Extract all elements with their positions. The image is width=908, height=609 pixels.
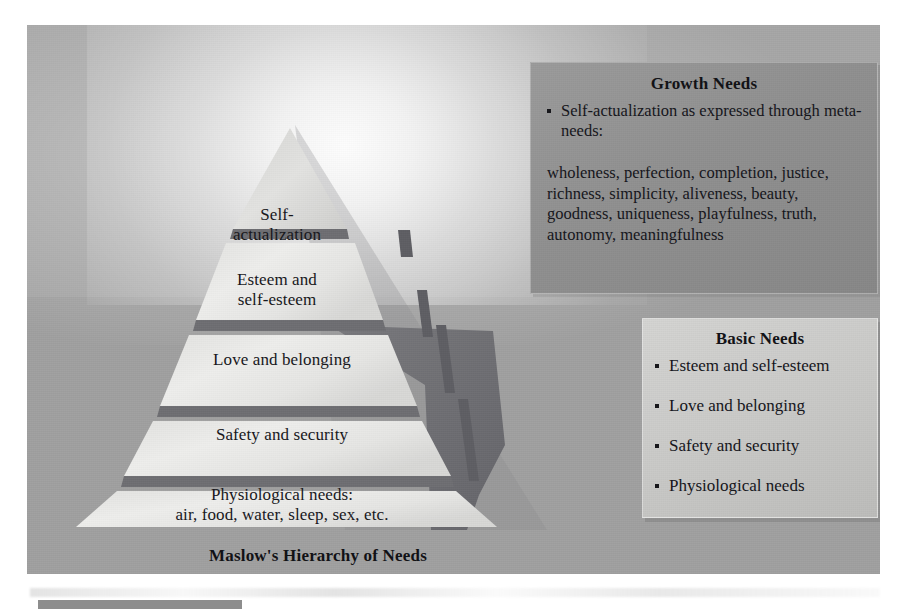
growth-needs-bullet-text: Self-actualization as expressed through …: [561, 101, 862, 140]
pyramid-level-safety-security[interactable]: [124, 421, 451, 476]
caption-bar: [38, 600, 242, 609]
growth-needs-title: Growth Needs: [545, 74, 863, 94]
square-bullet-icon: [655, 364, 659, 368]
pyramid-level-love-belonging[interactable]: [160, 335, 417, 406]
list-item: Esteem and self-esteem: [653, 356, 867, 376]
list-item: Love and belonging: [653, 396, 867, 416]
growth-needs-bullet-list: Self-actualization as expressed through …: [545, 101, 863, 141]
basic-needs-bullet-physiological: Physiological needs: [669, 476, 805, 495]
square-bullet-icon: [655, 484, 659, 488]
ghost-text-line: [30, 588, 880, 597]
pyramid-level-esteem[interactable]: [196, 243, 383, 320]
list-item: Physiological needs: [653, 476, 867, 496]
divider-2: [193, 320, 386, 331]
divider-1: [230, 229, 349, 239]
pyramid-level-self-actualization[interactable]: [233, 128, 347, 229]
basic-needs-bullet-esteem: Esteem and self-esteem: [669, 356, 830, 375]
growth-needs-meta-list: wholeness, perfection, completion, justi…: [545, 163, 863, 245]
list-item: Safety and security: [653, 436, 867, 456]
figure-plate: Self- actualization Esteem and self-este…: [27, 25, 880, 574]
list-item: Self-actualization as expressed through …: [545, 101, 863, 141]
pyramid-level-physiological[interactable]: [76, 491, 497, 527]
divider-4: [121, 476, 454, 487]
square-bullet-icon: [655, 444, 659, 448]
square-bullet-icon: [547, 109, 551, 113]
basic-needs-title: Basic Needs: [653, 329, 867, 349]
figure-root: Self- actualization Esteem and self-este…: [0, 0, 908, 609]
basic-needs-bullet-list: Esteem and self-esteem Love and belongin…: [653, 356, 867, 496]
slab-edge-1: [398, 230, 413, 257]
basic-needs-bullet-love: Love and belonging: [669, 396, 805, 415]
basic-needs-box: Basic Needs Esteem and self-esteem Love …: [642, 318, 878, 518]
growth-needs-box: Growth Needs Self-actualization as expre…: [530, 62, 878, 294]
basic-needs-bullet-safety: Safety and security: [669, 436, 799, 455]
square-bullet-icon: [655, 404, 659, 408]
figure-title: Maslow's Hierarchy of Needs: [133, 546, 503, 566]
divider-3: [157, 406, 420, 417]
